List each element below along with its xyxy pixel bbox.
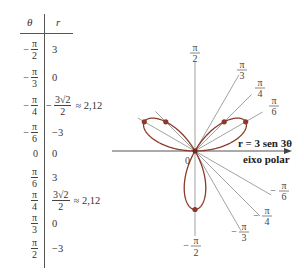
- svg-text:π: π: [239, 59, 244, 70]
- svg-text:−: −: [231, 226, 237, 237]
- data-point: [192, 207, 197, 212]
- ray-minus-pi3: [195, 151, 241, 231]
- angle-label-pi6: π 6: [269, 95, 279, 117]
- angle-label-minus-pi3: − π 3: [231, 221, 249, 243]
- svg-text:4: 4: [258, 88, 263, 99]
- angle-label-minus-pi4: − π 4: [253, 205, 272, 227]
- data-point: [222, 119, 227, 124]
- polar-axis-label: eixo polar: [243, 153, 290, 165]
- angle-label-pi3: π 3: [237, 59, 247, 81]
- data-point: [163, 119, 168, 124]
- polar-graph: 0 r = 3 sen 3θ eixo polar π 2 π 3 π 4 π …: [0, 0, 304, 275]
- svg-text:2: 2: [193, 53, 198, 64]
- angle-label-minus-pi2: − π 2: [183, 235, 201, 258]
- angle-label-pi2: π 2: [190, 42, 200, 64]
- svg-text:π: π: [193, 235, 198, 246]
- origin-label: 0: [185, 155, 190, 166]
- svg-text:π: π: [281, 180, 286, 191]
- svg-text:π: π: [241, 221, 246, 232]
- equation-label: r = 3 sen 3θ: [238, 137, 292, 149]
- svg-text:−: −: [270, 185, 276, 196]
- svg-text:3: 3: [242, 232, 247, 243]
- svg-text:2: 2: [194, 247, 199, 258]
- ray-pi3: [195, 75, 239, 151]
- data-point: [243, 119, 248, 124]
- angle-label-pi4: π 4: [255, 77, 265, 99]
- svg-text:−: −: [183, 240, 189, 251]
- svg-text:6: 6: [282, 191, 287, 202]
- svg-text:π: π: [271, 95, 276, 106]
- svg-text:π: π: [257, 77, 262, 88]
- svg-text:−: −: [253, 210, 259, 221]
- svg-text:π: π: [264, 205, 269, 216]
- angle-label-minus-pi6: − π 6: [270, 180, 289, 202]
- svg-text:4: 4: [265, 216, 270, 227]
- svg-text:3: 3: [240, 70, 245, 81]
- svg-text:π: π: [192, 42, 197, 53]
- origin-point: [193, 149, 198, 154]
- svg-text:6: 6: [272, 106, 277, 117]
- data-point: [142, 119, 147, 124]
